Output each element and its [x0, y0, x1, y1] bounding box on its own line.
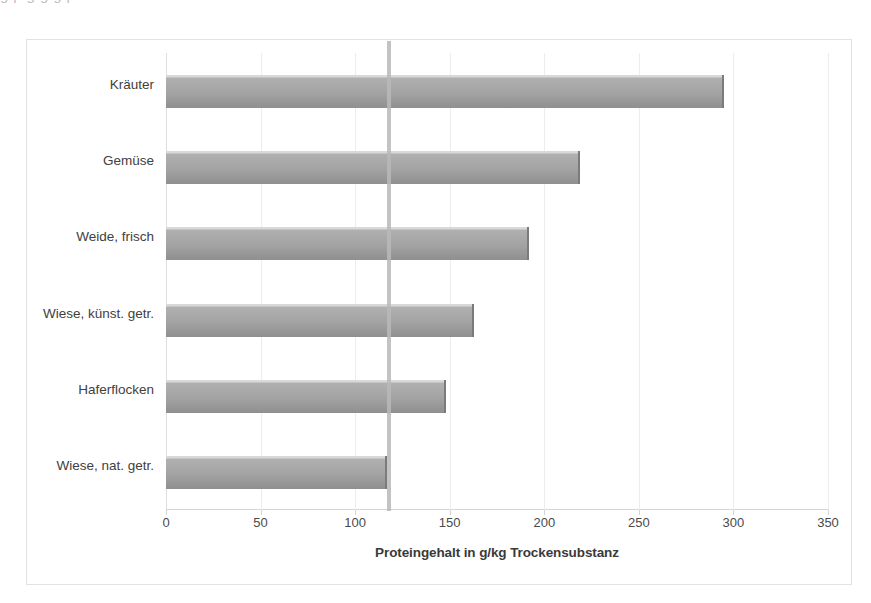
x-tick-label: 350 — [817, 515, 839, 530]
x-tick-label: 0 — [162, 515, 169, 530]
bar — [166, 75, 724, 108]
x-tick-label: 200 — [533, 515, 555, 530]
gridline — [828, 53, 829, 510]
clipped-caption-text: g p g g g p — [0, 0, 871, 4]
category-label: Gemüse — [103, 153, 154, 168]
bar — [166, 304, 474, 337]
x-tick-label: 300 — [723, 515, 745, 530]
bar-row: Kräuter — [166, 53, 828, 129]
category-label: Weide, frisch — [76, 229, 154, 244]
chart-frame: KräuterGemüseWeide, frischWiese, künst. … — [26, 39, 852, 585]
category-label: Haferflocken — [78, 382, 154, 397]
x-axis-title: Proteingehalt in g/kg Trockensubstanz — [166, 545, 828, 560]
x-tick-label: 100 — [344, 515, 366, 530]
plot-area: KräuterGemüseWeide, frischWiese, künst. … — [166, 53, 828, 510]
category-label: Wiese, künst. getr. — [43, 306, 154, 321]
x-tick-label: 50 — [253, 515, 267, 530]
bar — [166, 151, 580, 184]
bar-row: Haferflocken — [166, 358, 828, 434]
x-tick-label: 150 — [439, 515, 461, 530]
x-tick-label: 250 — [628, 515, 650, 530]
category-label: Kräuter — [110, 77, 154, 92]
bar-row: Gemüse — [166, 129, 828, 205]
bar — [166, 227, 529, 260]
requirement-reference-line — [387, 41, 391, 511]
bar — [166, 456, 387, 489]
category-label: Wiese, nat. getr. — [56, 458, 154, 473]
bar — [166, 380, 446, 413]
bar-row: Weide, frisch — [166, 205, 828, 281]
bar-row: Wiese, nat. getr. — [166, 434, 828, 510]
bar-row: Wiese, künst. getr. — [166, 282, 828, 358]
